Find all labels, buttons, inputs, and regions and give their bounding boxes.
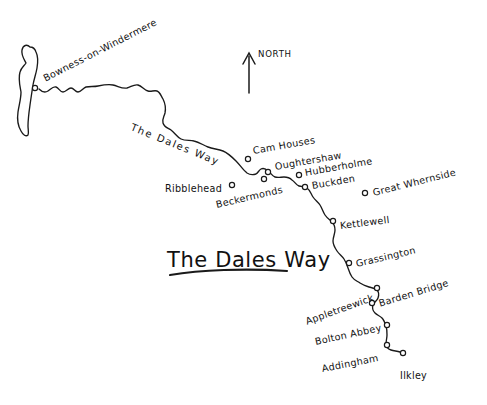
place-marker[interactable] [265,169,270,174]
place-marker[interactable] [384,342,389,347]
north-label: NORTH [258,50,292,59]
page-title: The Dales Way [167,248,331,272]
place-marker[interactable] [261,176,266,181]
place-marker[interactable] [330,218,335,223]
place-marker[interactable] [302,184,307,189]
place-marker[interactable] [384,322,389,327]
north-arrow-icon [243,53,255,93]
place-marker[interactable] [32,85,37,90]
place-marker[interactable] [245,156,250,161]
place-marker[interactable] [346,260,351,265]
dales-way-map: The Dales Way NORTH The Dales Way Bownes… [0,0,487,405]
place-marker[interactable] [400,350,405,355]
place-marker[interactable] [362,190,367,195]
place-marker[interactable] [229,182,234,187]
place-marker[interactable] [374,285,379,290]
place-label: Ribblehead [165,184,222,194]
place-label: Ilkley [400,371,427,381]
place-marker[interactable] [296,172,301,177]
